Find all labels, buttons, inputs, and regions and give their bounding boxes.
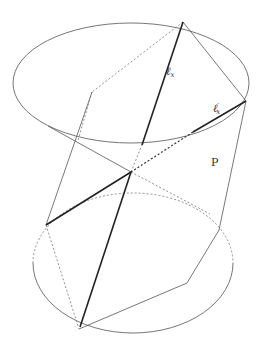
hidden-edge-top-left	[92, 22, 183, 92]
hidden-edge-left-bottom	[46, 225, 79, 329]
top-ellipse	[13, 23, 249, 143]
line-ell-x-prime-lower	[46, 172, 131, 225]
diagram-figure: ℓx ℓ′x P	[0, 0, 261, 348]
line-ell-x	[142, 22, 183, 145]
line-ell-x-lower	[80, 172, 131, 327]
bottom-ellipse-front	[33, 263, 233, 333]
plane-edge-bottom	[79, 283, 187, 329]
hidden-edge-center-up	[131, 145, 142, 172]
label-ell-x-prime: ℓ′x	[213, 102, 220, 116]
plane-edge-top-right	[183, 22, 246, 101]
cone-edge-left-upper	[48, 126, 131, 172]
bottom-ellipse-back	[33, 193, 233, 263]
label-ell-x: ℓx	[166, 65, 175, 79]
label-plane-p: P	[211, 156, 219, 169]
line-ell-x-prime-dashed	[131, 132, 193, 172]
plane-edge-right-lower	[187, 230, 219, 283]
plane-edge-left-upper	[46, 92, 92, 225]
line-ell-x-prime	[193, 101, 246, 132]
